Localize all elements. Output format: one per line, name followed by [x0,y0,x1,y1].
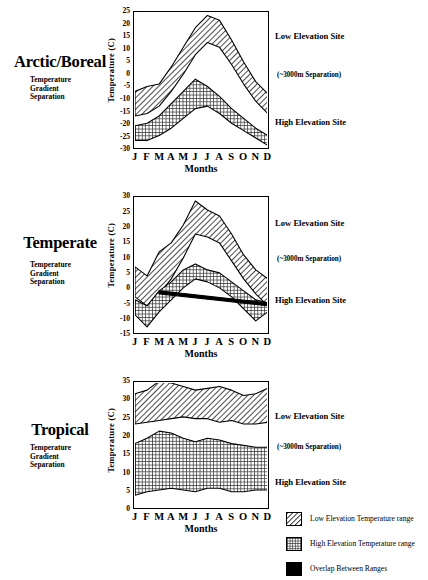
legend-item-overlap: Overlap Between Ranges [286,558,428,579]
month-tick-M-4: M [178,151,187,162]
y-tick-tropical-15: 15 [108,450,130,458]
month-tick-M-2: M [154,511,163,522]
month-tick-D-11: D [263,151,272,162]
note-high-elevation-arctic: High Elevation Site [275,117,346,127]
panel-title-tropical: Tropical [4,420,116,440]
y-tick-arctic--25: -25 [108,133,130,141]
note-separation-temperate: (~3000m Separation) [277,255,341,263]
month-tick-M-4: M [178,336,187,347]
y-tick-temperate-25: 25 [108,208,130,216]
y-tick-arctic--10: -10 [108,95,130,103]
y-tick-temperate-5: 5 [108,269,130,277]
legend-swatch-low-elevation [286,512,302,526]
month-tick-A-7: A [215,151,224,162]
y-tick-tropical-20: 20 [108,432,130,440]
note-separation-arctic: (~3000m Separation) [277,71,341,79]
note-separation-tropical: (~3000m Separation) [277,443,341,451]
month-tick-D-11: D [263,336,272,347]
y-tick-tropical-0: 0 [108,505,130,513]
y-tick-temperate--5: -5 [108,300,130,308]
month-tick-A-3: A [166,151,175,162]
month-tick-J-6: J [202,336,211,347]
month-tick-O-9: O [239,151,248,162]
y-tick-tropical-5: 5 [108,487,130,495]
panel-arctic-boreal: Arctic/Boreal Temperature Gradient Separ… [0,0,428,186]
legend-swatch-high-elevation [286,537,302,551]
legend-label-overlap: Overlap Between Ranges [310,564,387,573]
month-tick-J-0: J [130,336,139,347]
note-low-elevation-temperate: Low Elevation Site [275,218,344,228]
y-tick-arctic-10: 10 [108,45,130,53]
month-tick-M-4: M [178,511,187,522]
month-tick-J-5: J [190,336,199,347]
legend-swatch-overlap [286,562,302,576]
month-tick-A-3: A [166,511,175,522]
y-tick-temperate-0: 0 [108,284,130,292]
month-tick-F-1: F [142,511,151,522]
month-tick-J-0: J [130,151,139,162]
x-axis-months-temperate: JFMAMJJASOND [130,336,272,347]
y-tick-arctic--15: -15 [108,108,130,116]
x-axis-months-arctic: JFMAMJJASOND [130,151,272,162]
month-tick-S-8: S [227,336,236,347]
y-tick-tropical-25: 25 [108,414,130,422]
x-axis-title-arctic: Months [130,163,272,174]
month-tick-F-1: F [142,336,151,347]
y-tick-temperate-15: 15 [108,238,130,246]
y-tick-tropical-30: 30 [108,395,130,403]
legend: Low Elevation Temperature range High Ele… [286,508,428,580]
y-tick-arctic--30: -30 [108,145,130,153]
y-tick-arctic-5: 5 [108,57,130,65]
month-tick-A-7: A [215,336,224,347]
month-tick-O-9: O [239,511,248,522]
y-tick-arctic-25: 25 [108,7,130,15]
month-tick-J-6: J [202,151,211,162]
y-tick-tropical-10: 10 [108,469,130,477]
y-tick-arctic-0: 0 [108,70,130,78]
note-low-elevation-arctic: Low Elevation Site [275,31,344,41]
y-tick-arctic-20: 20 [108,20,130,28]
x-axis-months-tropical: JFMAMJJASOND [130,511,272,522]
legend-label-low-elevation: Low Elevation Temperature range [310,514,414,523]
month-tick-D-11: D [263,511,272,522]
month-tick-M-2: M [154,336,163,347]
month-tick-F-1: F [142,151,151,162]
note-high-elevation-tropical: High Elevation Site [275,477,346,487]
month-tick-A-3: A [166,336,175,347]
plot-bands-temperate [135,198,268,333]
month-tick-J-6: J [202,511,211,522]
month-tick-N-10: N [251,336,260,347]
legend-label-high-elevation: High Elevation Temperature range [310,539,415,548]
y-tick-arctic-15: 15 [108,32,130,40]
month-tick-M-2: M [154,151,163,162]
y-tick-tropical-35: 35 [108,377,130,385]
band-high-elevation-tropical [135,431,268,495]
y-tick-temperate--10: -10 [108,315,130,323]
legend-item-high-elevation: High Elevation Temperature range [286,533,428,554]
month-tick-O-9: O [239,336,248,347]
x-axis-title-tropical: Months [130,523,272,534]
month-tick-J-5: J [190,511,199,522]
y-tick-temperate-10: 10 [108,254,130,262]
panel-temperate: Temperate Temperature Gradient Separatio… [0,185,428,371]
y-tick-arctic--5: -5 [108,82,130,90]
month-tick-S-8: S [227,511,236,522]
y-tick-temperate--15: -15 [108,330,130,338]
plot-bands-arctic [135,13,268,148]
note-low-elevation-tropical: Low Elevation Site [275,411,344,421]
panel-title-temperate: Temperate [4,233,116,253]
month-tick-A-7: A [215,511,224,522]
month-tick-J-0: J [130,511,139,522]
y-tick-arctic--20: -20 [108,120,130,128]
plot-bands-tropical [135,383,268,508]
note-high-elevation-temperate: High Elevation Site [275,295,346,305]
y-tick-temperate-30: 30 [108,192,130,200]
month-tick-J-5: J [190,151,199,162]
y-tick-temperate-20: 20 [108,223,130,231]
panel-title-arctic: Arctic/Boreal [4,52,116,72]
band-low-elevation-tropical [135,383,268,424]
x-axis-title-temperate: Months [130,348,272,359]
band-low-elevation-temperate [135,201,268,306]
month-tick-N-10: N [251,151,260,162]
legend-item-low-elevation: Low Elevation Temperature range [286,508,428,529]
